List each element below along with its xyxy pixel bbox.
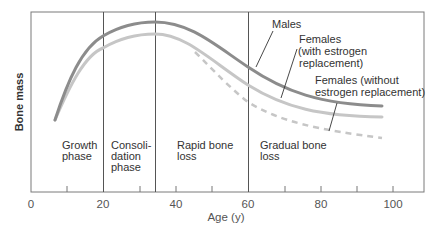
- x-tick-40: 40: [170, 198, 183, 210]
- label-females-with-1: Females: [299, 33, 342, 45]
- x-axis-ticks: [67, 186, 393, 192]
- phase-gradual-2: loss: [260, 150, 280, 162]
- phase-growth-2: phase: [62, 150, 92, 162]
- y-axis-label: Bone mass: [13, 73, 25, 132]
- bone-mass-chart: Males Females (with estrogen replacement…: [0, 0, 443, 232]
- plot-frame: [31, 12, 424, 192]
- x-tick-20: 20: [97, 198, 110, 210]
- x-tick-100: 100: [383, 198, 402, 210]
- label-males: Males: [272, 18, 302, 30]
- x-tick-0: 0: [28, 198, 34, 210]
- label-females-without-2: estrogen replacement): [315, 86, 425, 98]
- phase-consolidation-3: phase: [111, 161, 141, 173]
- label-females-with-2: (with estrogen: [298, 45, 367, 57]
- leader-males: [256, 31, 273, 67]
- label-females-without-1: Females (without: [315, 74, 399, 86]
- x-axis-label: Age (y): [207, 211, 244, 223]
- label-females-with-3: replacement): [299, 57, 363, 69]
- leader-females-without: [329, 103, 337, 131]
- x-tick-60: 60: [242, 198, 255, 210]
- x-tick-80: 80: [315, 198, 328, 210]
- phase-rapid-2: loss: [177, 150, 197, 162]
